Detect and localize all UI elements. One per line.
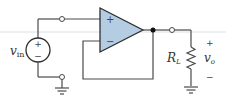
voltage-source: + − <box>26 19 50 77</box>
output-terminal <box>170 28 175 33</box>
output-label: vo <box>204 51 215 66</box>
source-minus: − <box>34 51 42 61</box>
resistor-icon <box>187 30 195 86</box>
ground-icon <box>184 87 198 93</box>
ground-icon <box>55 80 69 95</box>
output-node <box>151 28 156 33</box>
opamp-minus: − <box>106 36 114 47</box>
output-plus: + <box>206 38 214 48</box>
opamp-plus: + <box>106 14 114 25</box>
source-label: vin <box>10 44 25 59</box>
input-terminal <box>60 17 65 22</box>
ground-terminal <box>60 75 65 80</box>
load-label: RL <box>166 51 181 66</box>
circuit-diagram: + − vin + − RL + vo − <box>0 0 226 111</box>
source-plus: + <box>34 39 42 49</box>
output-minus: − <box>206 72 214 82</box>
